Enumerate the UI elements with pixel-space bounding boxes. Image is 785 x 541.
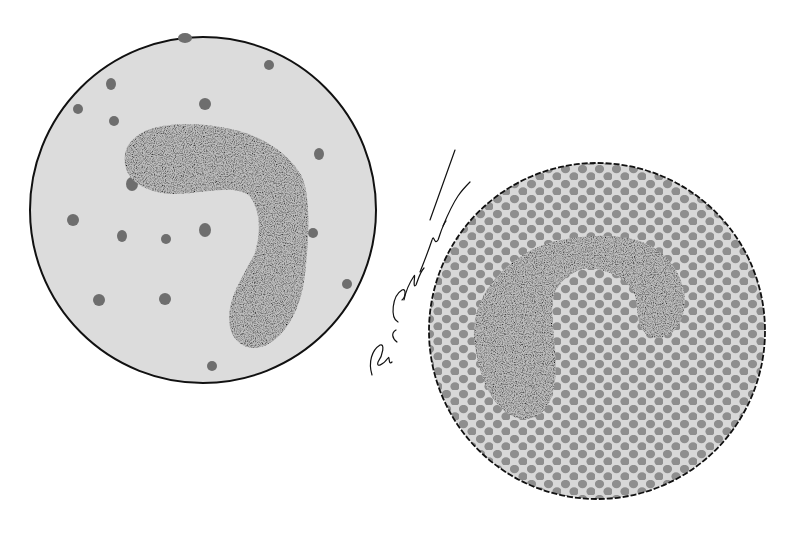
left-field-circle	[30, 37, 376, 383]
left-field-panel	[30, 33, 376, 383]
right-field-panel	[429, 163, 765, 499]
illustration-canvas	[0, 0, 785, 541]
